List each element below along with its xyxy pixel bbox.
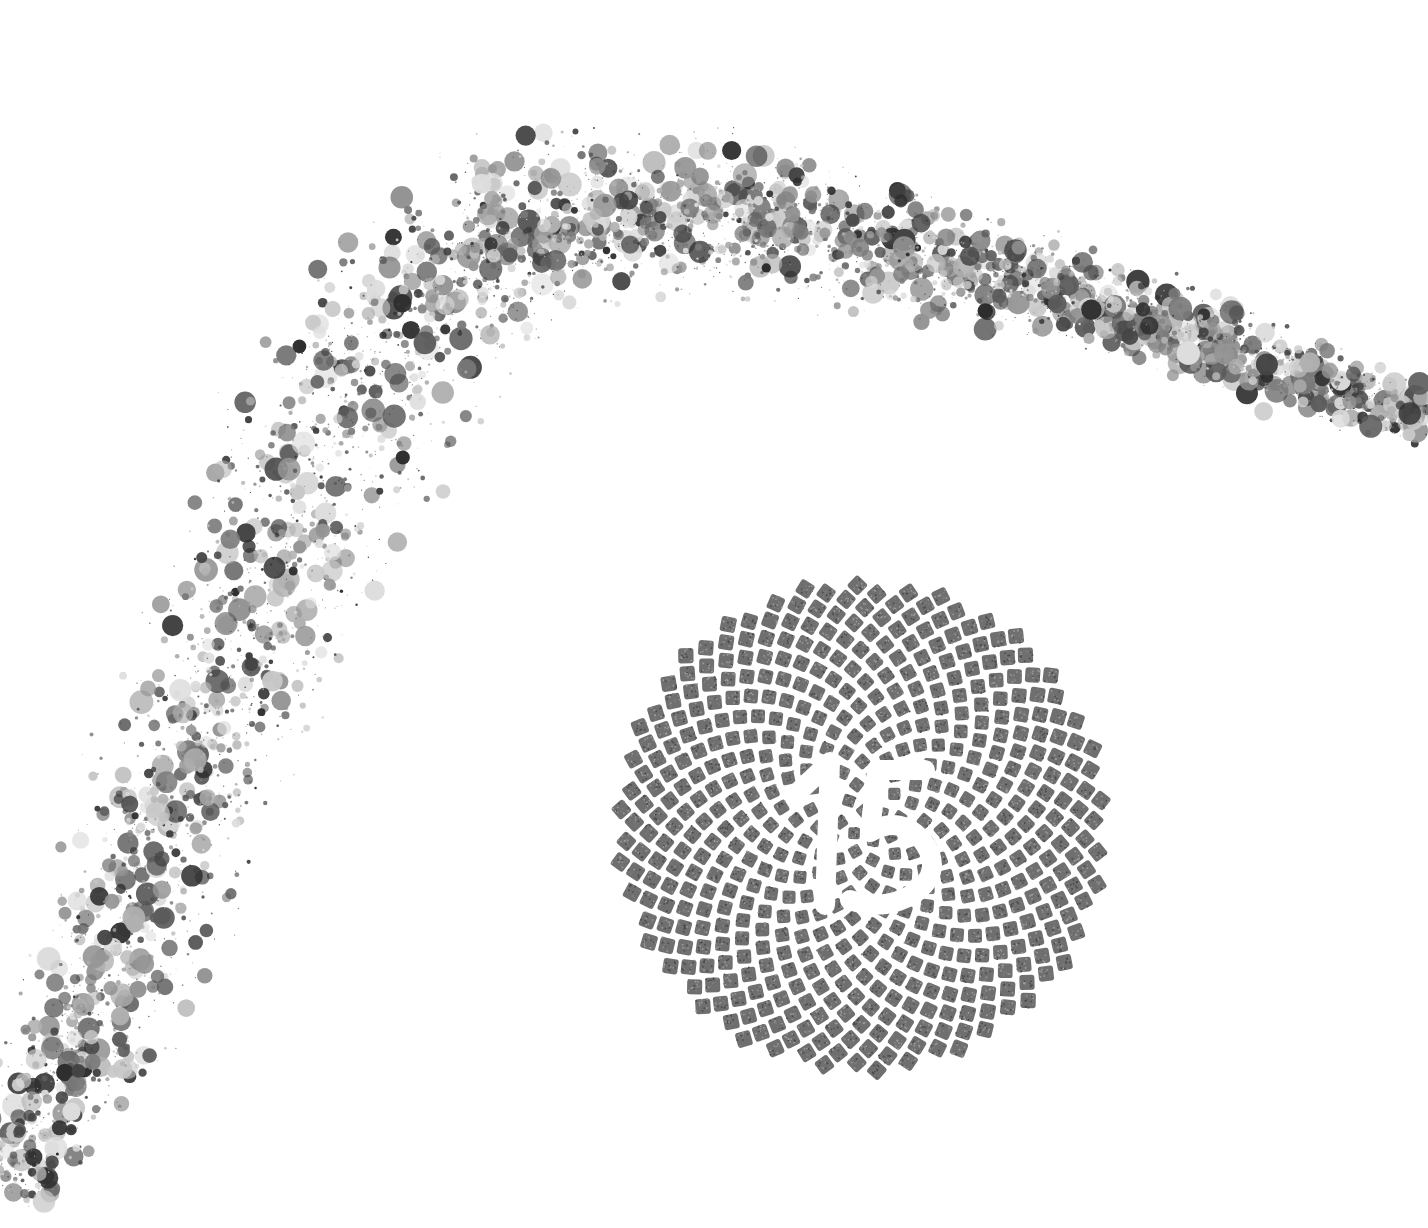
artwork-canvas: 15 [0,0,1428,1228]
sunflower-tile-disc [0,0,1428,1228]
